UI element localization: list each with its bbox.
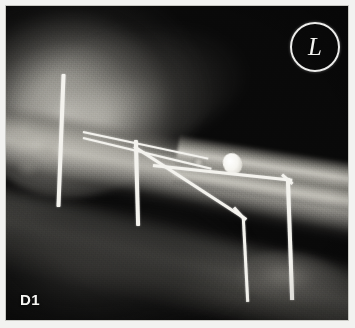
panel-label: D1 [20,291,40,308]
lower-left-fog [6,206,256,320]
radiograph-page: L D1 [0,0,355,328]
laterality-marker-letter: L [308,34,322,59]
laterality-marker: L [290,22,340,72]
radiograph-film-canvas: L D1 [6,6,348,320]
joint-trabecular-mottle [6,118,82,184]
radiograph-film-frame: L D1 [6,6,348,320]
